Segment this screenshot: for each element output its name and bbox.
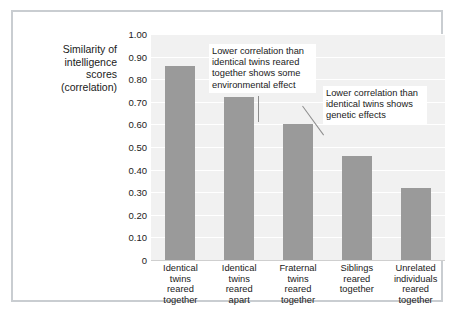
x-axis-label-line: together xyxy=(150,295,210,306)
gridline xyxy=(151,34,445,35)
y-axis-tick-label: 0.60 xyxy=(129,119,148,130)
x-axis-label-line: reared xyxy=(268,284,328,295)
x-axis-label-line: together xyxy=(327,284,387,295)
x-axis-label-line: reared xyxy=(386,284,446,295)
y-axis-title-line: scores xyxy=(27,68,117,81)
y-axis-tick-label: 0.90 xyxy=(129,51,148,62)
bar xyxy=(401,188,431,260)
x-axis-category-label: Siblingsrearedtogether xyxy=(327,263,387,295)
y-axis-tick-label: 1.00 xyxy=(129,29,148,40)
y-axis-tick-label: 0 xyxy=(142,255,147,266)
x-axis-label-line: together xyxy=(386,295,446,306)
x-axis-label-line: twins xyxy=(209,274,269,285)
x-axis-label-line: Identical xyxy=(150,263,210,274)
x-axis-label-line: individuals xyxy=(386,274,446,285)
bar xyxy=(224,97,254,260)
annotation-genetic-effects: Lower correlation than identical twins s… xyxy=(323,86,427,124)
x-axis-label-line: Fraternal xyxy=(268,263,328,274)
x-axis-category-label: Identicaltwinsrearedtogether xyxy=(150,263,210,305)
chart-frame: Similarity ofintelligencescores(correlat… xyxy=(11,10,443,302)
y-axis-tick-labels: 1.000.900.800.700.600.500.400.300.200.10… xyxy=(113,34,147,260)
x-axis-category-label: Unrelatedindividualsrearedtogether xyxy=(386,263,446,305)
y-axis-tick-label: 0.10 xyxy=(129,232,148,243)
x-axis-category-labels: IdenticaltwinsrearedtogetherIdenticaltwi… xyxy=(151,263,445,313)
x-axis-label-line: Identical xyxy=(209,263,269,274)
y-axis-title-line: intelligence xyxy=(27,56,117,69)
x-axis-label-line: reared xyxy=(150,284,210,295)
bar xyxy=(165,66,195,260)
y-axis-title-line: (correlation) xyxy=(27,81,117,94)
x-axis-label-line: together xyxy=(268,295,328,306)
annotation-leader-line-1 xyxy=(258,96,259,122)
y-axis-title-line: Similarity of xyxy=(27,43,117,56)
y-axis-tick-label: 0.80 xyxy=(129,74,148,85)
bar xyxy=(342,156,372,260)
x-axis-label-line: apart xyxy=(209,295,269,306)
y-axis-tick-label: 0.50 xyxy=(129,142,148,153)
x-axis-label-line: twins xyxy=(268,274,328,285)
x-axis-label-line: Unrelated xyxy=(386,263,446,274)
y-axis-tick-label: 0.40 xyxy=(129,164,148,175)
y-axis-tick-label: 0.70 xyxy=(129,96,148,107)
x-axis-label-line: twins xyxy=(150,274,210,285)
x-axis-label-line: reared xyxy=(327,274,387,285)
gridline xyxy=(151,260,445,261)
x-axis-category-label: Fraternaltwinsrearedtogether xyxy=(268,263,328,305)
x-axis-category-label: Identicaltwinsrearedapart xyxy=(209,263,269,305)
x-axis-label-line: Siblings xyxy=(327,263,387,274)
y-axis-title: Similarity ofintelligencescores(correlat… xyxy=(27,43,117,93)
y-axis-tick-label: 0.20 xyxy=(129,209,148,220)
y-axis-tick-label: 0.30 xyxy=(129,187,148,198)
x-axis-label-line: reared xyxy=(209,284,269,295)
annotation-environmental-effect: Lower correlation than identical twins r… xyxy=(209,44,316,93)
bar xyxy=(283,124,313,260)
